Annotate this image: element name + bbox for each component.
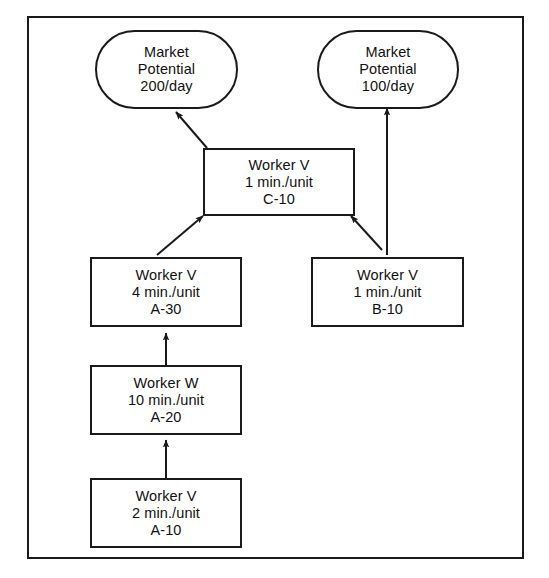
node-label-line1: Worker V xyxy=(249,157,310,174)
node-label-line3: 200/day xyxy=(140,78,192,95)
node-label-line1: Worker V xyxy=(136,267,197,284)
node-operation-b10[interactable]: Worker V 1 min./unit B-10 xyxy=(311,257,464,327)
node-label-line1: Market xyxy=(366,44,411,61)
node-label-line2: 1 min./unit xyxy=(354,284,422,301)
node-operation-a30[interactable]: Worker V 4 min./unit A-30 xyxy=(90,257,242,327)
node-label-line1: Market xyxy=(144,44,189,61)
node-market-potential-100[interactable]: Market Potential 100/day xyxy=(317,30,459,109)
node-label-line2: 4 min./unit xyxy=(132,284,200,301)
node-label-line2: 1 min./unit xyxy=(245,174,313,191)
node-label-line3: 100/day xyxy=(362,78,414,95)
node-label-line3: B-10 xyxy=(372,301,403,318)
node-label-line1: Worker V xyxy=(136,488,197,505)
node-label-line1: Worker W xyxy=(134,375,199,392)
node-operation-a20[interactable]: Worker W 10 min./unit A-20 xyxy=(90,365,242,435)
node-label-line3: C-10 xyxy=(263,191,295,208)
node-operation-a10[interactable]: Worker V 2 min./unit A-10 xyxy=(90,478,242,548)
node-label-line2: 2 min./unit xyxy=(132,505,200,522)
node-label-line3: A-10 xyxy=(150,522,181,539)
node-operation-c10[interactable]: Worker V 1 min./unit C-10 xyxy=(203,148,355,216)
node-label-line2: Potential xyxy=(359,61,416,78)
node-label-line2: Potential xyxy=(138,61,195,78)
node-label-line3: A-20 xyxy=(150,409,181,426)
node-label-line3: A-30 xyxy=(150,301,181,318)
node-market-potential-200[interactable]: Market Potential 200/day xyxy=(95,30,238,109)
node-label-line1: Worker V xyxy=(357,267,418,284)
diagram-canvas: Market Potential 200/day Market Potentia… xyxy=(0,0,549,578)
node-label-line2: 10 min./unit xyxy=(128,392,204,409)
